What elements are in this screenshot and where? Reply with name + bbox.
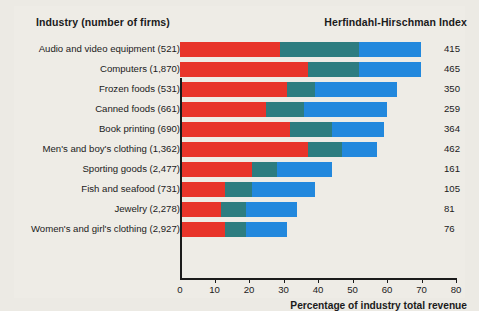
x-tick-label: 0 [168, 284, 192, 295]
chart-figure: Industry (number of firms) Herfindahl-Hi… [0, 0, 479, 311]
stacked-bar [180, 182, 315, 197]
x-tick-label: 70 [410, 284, 434, 295]
x-tick-label: 10 [203, 284, 227, 295]
chart-row: Sporting goods (2,477)161 [0, 160, 479, 180]
bar-segment-3 [246, 202, 298, 217]
hhi-value: 465 [444, 63, 460, 74]
bar-segment-2 [225, 222, 246, 237]
bar-segment-3 [359, 42, 421, 57]
bar-segment-1 [180, 102, 266, 117]
row-label: Men's and boy's clothing (1,362) [42, 143, 180, 154]
bar-segment-2 [280, 42, 359, 57]
chart-column-headers: Industry (number of firms) Herfindahl-Hi… [0, 16, 479, 32]
row-label: Fish and seafood (731) [81, 183, 180, 194]
hhi-value: 364 [444, 123, 460, 134]
stacked-bar [180, 222, 287, 237]
hhi-column-header: Herfindahl-Hirschman Index [324, 16, 467, 28]
hhi-value: 462 [444, 143, 460, 154]
bar-segment-2 [287, 82, 315, 97]
chart-row: Computers (1,870)465 [0, 60, 479, 80]
x-tick [456, 278, 457, 283]
x-tick [353, 278, 354, 283]
hhi-value: 350 [444, 83, 460, 94]
x-tick [422, 278, 423, 283]
bar-segment-3 [359, 62, 421, 77]
x-tick-label: 80 [444, 284, 468, 295]
x-tick-label: 50 [341, 284, 365, 295]
x-tick-label: 40 [306, 284, 330, 295]
x-tick-label: 20 [237, 284, 261, 295]
bar-segment-3 [252, 182, 314, 197]
chart-row: Jewelry (2,278)81 [0, 200, 479, 220]
row-label: Jewelry (2,278) [114, 203, 180, 214]
hhi-value: 81 [444, 203, 455, 214]
bar-segment-2 [290, 122, 331, 137]
hhi-value: 259 [444, 103, 460, 114]
chart-plot-area: Audio and video equipment (521)415Comput… [0, 38, 479, 238]
bar-segment-3 [315, 82, 398, 97]
row-label: Women's and girl's clothing (2,927) [31, 223, 180, 234]
bar-segment-3 [304, 102, 387, 117]
bar-segment-1 [180, 62, 308, 77]
row-label: Computers (1,870) [100, 63, 180, 74]
hhi-value: 76 [444, 223, 455, 234]
chart-row: Men's and boy's clothing (1,362)462 [0, 140, 479, 160]
stacked-bar [180, 62, 421, 77]
bar-segment-3 [277, 162, 332, 177]
chart-row: Book printing (690)364 [0, 120, 479, 140]
x-tick [318, 278, 319, 283]
industry-column-header: Industry (number of firms) [36, 16, 170, 28]
bar-segment-1 [180, 182, 225, 197]
row-label: Sporting goods (2,477) [82, 163, 180, 174]
stacked-bar [180, 122, 384, 137]
row-label: Book printing (690) [99, 123, 180, 134]
bar-segment-1 [180, 82, 287, 97]
bar-segment-2 [221, 202, 245, 217]
stacked-bar [180, 42, 421, 57]
y-axis-line [180, 78, 182, 280]
bar-segment-1 [180, 202, 221, 217]
bar-segment-1 [180, 122, 290, 137]
bar-segment-3 [332, 122, 384, 137]
x-tick-label: 60 [375, 284, 399, 295]
bar-segment-1 [180, 42, 280, 57]
hhi-value: 105 [444, 183, 460, 194]
bar-segment-1 [180, 142, 308, 157]
bar-segment-2 [225, 182, 253, 197]
x-tick-label: 30 [272, 284, 296, 295]
row-label: Canned foods (661) [95, 103, 180, 114]
bar-segment-2 [308, 142, 343, 157]
bar-segment-2 [266, 102, 304, 117]
x-tick [249, 278, 250, 283]
bar-segment-2 [252, 162, 276, 177]
x-axis-title: Percentage of industry total revenue [290, 300, 467, 311]
x-tick [387, 278, 388, 283]
row-label: Audio and video equipment (521) [39, 43, 180, 54]
stacked-bar [180, 102, 387, 117]
stacked-bar [180, 82, 397, 97]
chart-row: Audio and video equipment (521)415 [0, 40, 479, 60]
chart-row: Frozen foods (531)350 [0, 80, 479, 100]
hhi-value: 161 [444, 163, 460, 174]
x-tick [215, 278, 216, 283]
bar-segment-3 [246, 222, 287, 237]
x-tick [284, 278, 285, 283]
bar-segment-3 [342, 142, 377, 157]
chart-row: Fish and seafood (731)105 [0, 180, 479, 200]
row-label: Frozen foods (531) [99, 83, 180, 94]
bar-segment-1 [180, 162, 252, 177]
stacked-bar [180, 202, 297, 217]
bar-segment-2 [308, 62, 360, 77]
chart-row: Canned foods (661)259 [0, 100, 479, 120]
stacked-bar [180, 142, 377, 157]
bar-segment-1 [180, 222, 225, 237]
stacked-bar [180, 162, 332, 177]
hhi-value: 415 [444, 43, 460, 54]
chart-row: Women's and girl's clothing (2,927)76 [0, 220, 479, 240]
